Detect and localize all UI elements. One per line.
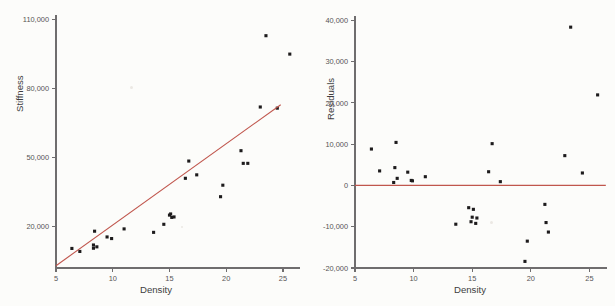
data-point — [152, 231, 155, 234]
y-tick-label: 40,000 — [325, 16, 348, 25]
y-tick-label: -20,000 — [323, 264, 348, 273]
data-point — [394, 141, 397, 144]
data-point — [106, 235, 109, 238]
y-tick-label: 30,000 — [325, 57, 348, 66]
data-point — [454, 223, 457, 226]
data-point — [472, 208, 475, 211]
data-point — [78, 250, 81, 253]
data-point — [92, 247, 95, 250]
x-tick-label: 25 — [279, 274, 287, 283]
chart-ylabel-stiffness: Stiffness — [14, 75, 25, 112]
data-point — [184, 177, 187, 180]
data-point — [95, 245, 98, 248]
y-tick-label: 110,000 — [23, 15, 49, 24]
data-point — [471, 216, 474, 219]
data-point — [406, 171, 409, 174]
data-point — [499, 180, 502, 183]
panel-residuals-vs-density: -20,000-10,000010,00020,00030,00040,0005… — [307, 0, 614, 306]
data-point — [596, 93, 599, 96]
data-point — [526, 240, 529, 243]
stiffness-scatter-plot: 20,00050,00080,000110,000510152025 — [0, 0, 307, 306]
y-tick-label: -10,000 — [323, 222, 348, 231]
data-point — [92, 243, 95, 246]
data-point — [239, 149, 242, 152]
data-point — [123, 227, 126, 230]
data-point — [469, 220, 472, 223]
panel-stiffness-vs-density: 20,00050,00080,000110,000510152025 Stiff… — [0, 0, 307, 306]
chart-xlabel-density: Density — [140, 284, 172, 295]
data-point — [221, 184, 224, 187]
data-point — [424, 175, 427, 178]
data-point — [563, 154, 566, 157]
data-point — [411, 179, 414, 182]
data-point — [172, 215, 175, 218]
data-point — [487, 170, 490, 173]
x-tick-label: 5 — [54, 274, 58, 283]
chart-xlabel-density: Density — [454, 284, 486, 295]
data-point — [242, 162, 245, 165]
data-point — [370, 147, 373, 150]
data-point — [219, 195, 222, 198]
data-point — [475, 216, 478, 219]
data-point — [545, 221, 548, 224]
data-point — [474, 222, 477, 225]
data-point — [195, 173, 198, 176]
regression-figure: 20,00050,00080,000110,000510152025 Stiff… — [0, 0, 615, 306]
data-point — [70, 247, 73, 250]
x-tick-label: 5 — [353, 274, 357, 283]
data-point — [162, 223, 165, 226]
y-tick-label: 0 — [344, 181, 348, 190]
data-point — [288, 53, 291, 56]
x-tick-label: 25 — [585, 274, 593, 283]
data-point — [392, 181, 395, 184]
x-tick-label: 20 — [222, 274, 230, 283]
data-point — [110, 237, 113, 240]
y-tick-label: 50,000 — [26, 153, 49, 162]
data-point — [378, 169, 381, 172]
y-tick-label: 80,000 — [26, 84, 49, 93]
data-point — [246, 162, 249, 165]
y-tick-label: 10,000 — [325, 140, 348, 149]
data-point — [264, 34, 267, 37]
data-point — [569, 26, 572, 29]
residuals-scatter-plot: -20,000-10,000010,00020,00030,00040,0005… — [307, 0, 614, 306]
data-point — [523, 260, 526, 263]
x-tick-label: 15 — [165, 274, 173, 283]
data-point — [543, 203, 546, 206]
data-point — [169, 212, 172, 215]
data-point — [467, 206, 470, 209]
y-tick-label: 20,000 — [26, 222, 49, 231]
data-point — [547, 231, 550, 234]
data-point — [396, 177, 399, 180]
data-point — [393, 166, 396, 169]
x-tick-label: 10 — [109, 274, 117, 283]
x-tick-label: 10 — [409, 274, 417, 283]
x-tick-label: 20 — [527, 274, 535, 283]
x-tick-label: 15 — [468, 274, 476, 283]
data-point — [259, 105, 262, 108]
data-point — [491, 142, 494, 145]
data-point — [187, 160, 190, 163]
data-point — [581, 171, 584, 174]
data-point — [93, 230, 96, 233]
chart-ylabel-residuals: Residuals — [325, 78, 336, 120]
